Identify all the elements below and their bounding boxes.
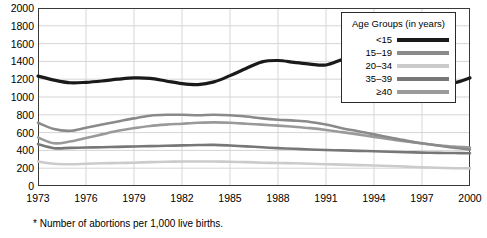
x-tick-label: 1988: [266, 193, 289, 204]
abortion-ratio-line-chart: 0200400600800100012001400160018002000 19…: [0, 0, 487, 238]
series-line-2034: [38, 161, 470, 168]
legend-item-swatch: [397, 51, 449, 55]
legend-item: 15–19: [348, 47, 449, 59]
x-tick-label: 1997: [410, 193, 433, 204]
legend-item-swatch: [397, 38, 449, 42]
x-tick-label: 1982: [170, 193, 193, 204]
legend-item-label: 20–34: [348, 61, 397, 71]
legend-item-label: 35–39: [348, 74, 397, 84]
legend-item: <15: [348, 34, 449, 46]
legend-title: Age Groups (in years): [348, 19, 449, 29]
x-tick-label: 1979: [122, 193, 145, 204]
legend-item: 35–39: [348, 73, 449, 85]
legend-item-label: 15–19: [348, 48, 397, 58]
footnote: * Number of abortions per 1,000 live bir…: [33, 219, 223, 229]
legend-item-label: ≥40: [348, 87, 397, 97]
x-tick-label: 1976: [74, 193, 97, 204]
legend-items: <1515–1920–3435–39≥40: [348, 34, 449, 98]
legend-item-label: <15: [348, 35, 397, 45]
x-tick-label: 1973: [26, 193, 49, 204]
legend-item: ≥40: [348, 86, 449, 98]
x-tick-label: 1991: [314, 193, 337, 204]
legend-item-swatch: [397, 90, 449, 94]
legend-item: 20–34: [348, 60, 449, 72]
legend-item-swatch: [397, 64, 449, 68]
x-tick-label: 2000: [458, 193, 481, 204]
x-tick-label: 1994: [362, 193, 385, 204]
legend: Age Groups (in years) <1515–1920–3435–39…: [341, 12, 456, 103]
series-line-40: [38, 122, 470, 147]
legend-item-swatch: [397, 77, 449, 81]
x-tick-label: 1985: [218, 193, 241, 204]
series-line-3539: [38, 144, 470, 153]
